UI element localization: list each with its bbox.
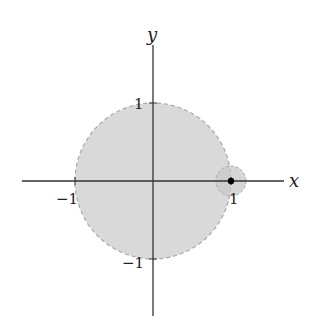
tick-label-y-neg: −1 bbox=[122, 254, 144, 272]
tick-label-y-pos: 1 bbox=[134, 95, 144, 113]
complex-plane-diagram: y x −1 1 1 −1 bbox=[0, 0, 318, 330]
point-one bbox=[228, 178, 234, 184]
tick-label-x-pos: 1 bbox=[229, 190, 239, 208]
y-axis-label: y bbox=[146, 24, 158, 45]
x-axis-label: x bbox=[289, 170, 299, 191]
tick-label-x-neg: −1 bbox=[56, 190, 78, 208]
